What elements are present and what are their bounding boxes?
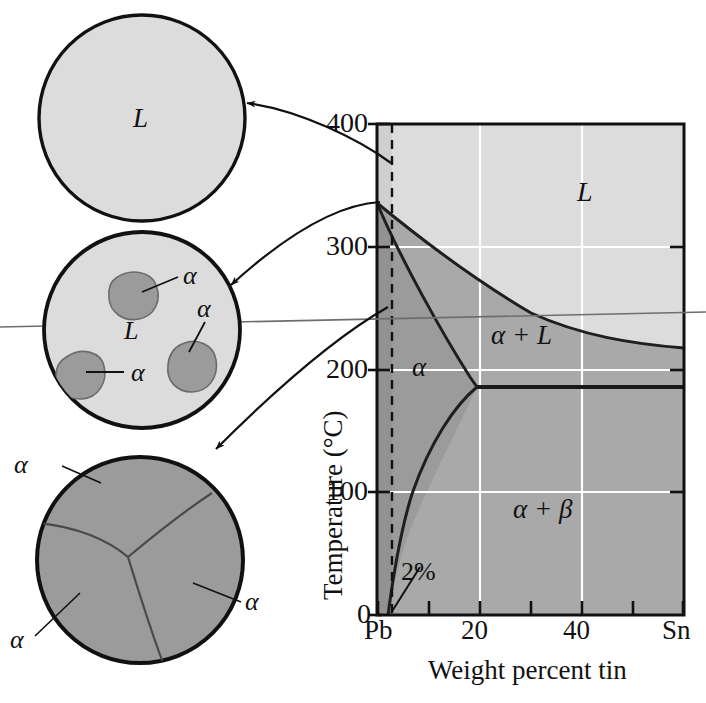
x-tick-label-sn: Sn	[662, 615, 691, 646]
y-tick-label-200: 200	[326, 353, 368, 385]
region-label-liquid: L	[577, 176, 593, 208]
microstructure-all-alpha	[35, 457, 243, 663]
callout-arrow-to-liquid	[247, 103, 391, 163]
x-tick-label-pb: Pb	[364, 615, 393, 646]
circle3-alpha-label-right: α	[245, 587, 259, 617]
region-label-alpha: α	[412, 352, 426, 383]
circle2-alpha-label-1: α	[183, 261, 197, 291]
x-tick-label-20: 20	[461, 615, 488, 646]
circle3-alpha-label-top: α	[14, 450, 28, 480]
figure-canvas	[0, 0, 706, 703]
y-tick-label-400: 400	[326, 107, 368, 139]
circle2-alpha-label-3: α	[197, 294, 211, 324]
alpha-particle-3	[168, 341, 217, 392]
figure-root: 400 300 200 100 0 Pb 20 40 Sn Temperatur…	[0, 0, 706, 703]
circle3-alpha-label-bottom: α	[10, 625, 24, 655]
circle2-matrix-label: L	[124, 316, 138, 346]
x-tick-label-40: 40	[563, 615, 590, 646]
y-tick-label-300: 300	[326, 230, 368, 262]
x-axis-title: Weight percent tin	[428, 655, 627, 686]
alpha-particle-1	[109, 272, 158, 319]
y-axis-title: Temperature (°C)	[318, 410, 349, 600]
circle2-alpha-label-2: α	[131, 358, 145, 388]
microstructure-alpha-in-liquid	[44, 232, 240, 428]
region-label-alpha-plus-liquid: α + L	[491, 320, 552, 351]
circle1-matrix-label: L	[133, 103, 148, 134]
solubility-limit-label: 2%	[401, 557, 436, 587]
alpha-particle-2	[56, 351, 105, 399]
region-label-alpha-plus-beta: α + β	[513, 494, 572, 525]
